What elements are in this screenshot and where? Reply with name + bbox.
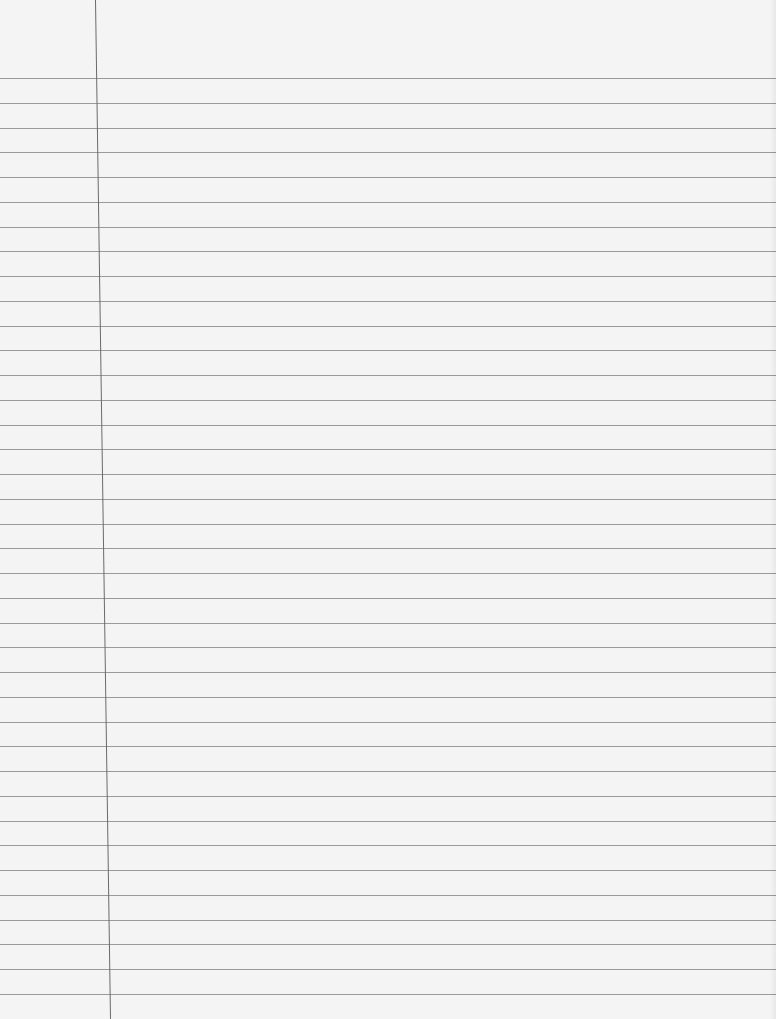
ruled-line: [0, 449, 776, 450]
ruled-line: [0, 400, 776, 401]
ruled-line: [0, 573, 776, 574]
ruled-line: [0, 746, 776, 747]
ruled-line: [0, 821, 776, 822]
ruled-line: [0, 152, 776, 153]
ruled-line: [0, 524, 776, 525]
ruled-line: [0, 177, 776, 178]
ruled-line: [0, 623, 776, 624]
ruled-line: [0, 474, 776, 475]
ruled-line: [0, 895, 776, 896]
ruled-line: [0, 994, 776, 995]
ruled-line: [0, 103, 776, 104]
ruled-line: [0, 845, 776, 846]
ruled-line: [0, 771, 776, 772]
ruled-line: [0, 697, 776, 698]
ruled-line: [0, 301, 776, 302]
ruled-line: [0, 969, 776, 970]
lined-paper-sheet: [0, 0, 776, 1019]
ruled-line: [0, 672, 776, 673]
ruled-line: [0, 425, 776, 426]
ruled-line: [0, 350, 776, 351]
ruled-line: [0, 78, 776, 79]
ruled-line: [0, 920, 776, 921]
ruled-line: [0, 326, 776, 327]
ruled-line: [0, 227, 776, 228]
ruled-line: [0, 722, 776, 723]
ruled-line: [0, 598, 776, 599]
ruled-line: [0, 796, 776, 797]
ruled-line: [0, 647, 776, 648]
ruled-line: [0, 276, 776, 277]
ruled-line: [0, 251, 776, 252]
ruled-line: [0, 944, 776, 945]
page-edge-shadow: [770, 0, 776, 1019]
ruled-line: [0, 548, 776, 549]
ruled-line: [0, 128, 776, 129]
ruled-line: [0, 375, 776, 376]
ruled-line: [0, 870, 776, 871]
ruled-line: [0, 499, 776, 500]
ruled-line: [0, 202, 776, 203]
